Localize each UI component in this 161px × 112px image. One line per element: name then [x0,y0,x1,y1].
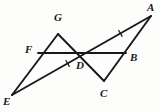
geometry-figure: AGFBDCE [0,0,161,112]
vertex-b-label: B [130,52,137,63]
vertex-e-label: E [3,96,10,107]
vertex-f-label: F [25,44,32,55]
vertex-a-label: A [147,2,154,13]
vertex-g-label: G [54,12,62,23]
segment-e-g [12,34,58,95]
vertex-d-label: D [76,60,84,71]
segment-a-c [104,16,151,81]
segment-g-c [58,34,104,81]
vertex-c-label: C [100,88,107,99]
